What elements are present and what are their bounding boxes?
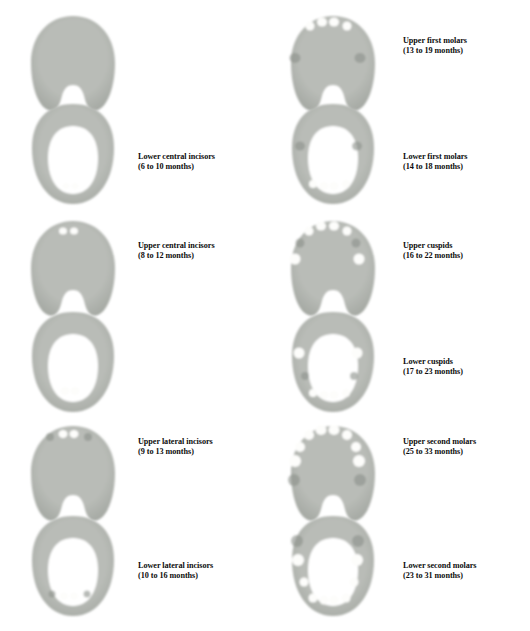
tooth-lower-central-incisor-left bbox=[320, 391, 329, 399]
tooth-upper-first-molar-left bbox=[290, 254, 301, 265]
tooth-upper-first-molar-right bbox=[354, 254, 365, 265]
label-lower-lateral-incisors-months: (10 to 16 months) bbox=[138, 571, 213, 581]
socket-lower-first-molar-right bbox=[352, 142, 362, 151]
tooth-lower-lateral-incisor-left bbox=[309, 389, 317, 397]
tooth-upper-central-incisor-left bbox=[317, 18, 327, 27]
tooth-lower-first-molar-right bbox=[351, 554, 363, 566]
tooth-lower-lateral-incisor-right bbox=[342, 389, 350, 397]
arch-cell-lower-arch-lower-cuspids bbox=[278, 308, 388, 418]
tooth-lower-first-molar-left bbox=[292, 554, 304, 566]
label-lower-lateral-incisors-title: Lower lateral incisors bbox=[138, 561, 213, 571]
label-upper-first-molars-months: (13 to 19 months) bbox=[403, 46, 467, 56]
label-lower-cuspids-title: Lower cuspids bbox=[403, 357, 463, 367]
socket-upper-cuspid-right bbox=[352, 239, 361, 248]
label-lower-central-incisors: Lower central incisors(6 to 10 months) bbox=[138, 152, 215, 173]
tooth-lower-cuspid-right bbox=[350, 578, 359, 587]
label-upper-second-molars: Upper second molars(25 to 33 months) bbox=[403, 437, 476, 458]
lower-arch-lower-second-molars bbox=[278, 512, 388, 622]
label-upper-central-incisors: Upper central incisors(8 to 12 months) bbox=[138, 241, 215, 262]
label-upper-lateral-incisors: Upper lateral incisors(9 to 13 months) bbox=[138, 437, 213, 458]
tooth-upper-lateral-incisor-left bbox=[305, 227, 314, 236]
label-upper-central-incisors-title: Upper central incisors bbox=[138, 241, 215, 251]
label-upper-second-molars-title: Upper second molars bbox=[403, 437, 476, 447]
tooth-lower-lateral-incisor-left bbox=[309, 594, 318, 603]
tooth-upper-central-incisor-right bbox=[329, 425, 340, 435]
tooth-upper-central-incisor-left bbox=[59, 228, 67, 235]
label-upper-first-molars: Upper first molars(13 to 19 months) bbox=[403, 36, 467, 57]
socket-lower-lateral-incisor-right bbox=[84, 591, 91, 598]
label-lower-cuspids: Lower cuspids(17 to 23 months) bbox=[403, 357, 463, 378]
lower-arch-lower-central-incisors bbox=[18, 100, 128, 210]
tooth-upper-central-incisor-left bbox=[316, 222, 326, 231]
socket-lower-second-molar-left bbox=[291, 535, 303, 547]
label-lower-central-incisors-months: (6 to 10 months) bbox=[138, 162, 215, 172]
tooth-upper-cuspid-right bbox=[351, 442, 361, 452]
arch-cell-lower-arch-lower-central-incisors-erupted bbox=[18, 308, 128, 418]
tooth-lower-central-incisor-left bbox=[60, 593, 68, 600]
socket-lower-second-molar-right bbox=[352, 535, 364, 547]
tooth-lower-central-incisor-right bbox=[72, 183, 79, 189]
socket-lower-cuspid-right bbox=[350, 372, 358, 380]
tooth-lower-lateral-incisor-right bbox=[342, 594, 351, 603]
tooth-lower-central-incisor-left bbox=[320, 182, 329, 190]
tooth-lower-central-incisor-right bbox=[71, 387, 80, 395]
label-upper-central-incisors-months: (8 to 12 months) bbox=[138, 251, 215, 261]
lower-arch-lower-lateral-incisors bbox=[18, 512, 128, 622]
socket-upper-cuspid-left bbox=[296, 239, 305, 248]
lower-arch-lower-first-molars bbox=[278, 100, 388, 210]
tooth-upper-lateral-incisor-left bbox=[304, 430, 314, 440]
tooth-upper-central-incisor-left bbox=[316, 425, 327, 435]
label-upper-cuspids: Upper cuspids(16 to 22 months) bbox=[403, 241, 463, 262]
tooth-lower-central-incisor-right bbox=[330, 182, 339, 190]
tooth-lower-central-incisor-right bbox=[330, 391, 339, 399]
socket-lower-cuspid-left bbox=[301, 372, 309, 380]
tooth-lower-central-incisor-right bbox=[70, 593, 78, 600]
tooth-lower-first-molar-left bbox=[294, 348, 305, 359]
tooth-lower-cuspid-left bbox=[300, 578, 309, 587]
tooth-eruption-chart: Lower central incisors(6 to 10 months)Up… bbox=[0, 0, 530, 631]
label-lower-first-molars-title: Lower first molars bbox=[403, 152, 467, 162]
tooth-lower-central-incisor-left bbox=[61, 387, 70, 395]
tooth-lower-first-molar-right bbox=[352, 348, 363, 359]
tooth-upper-first-molar-left bbox=[289, 455, 301, 467]
label-lower-first-molars-months: (14 to 18 months) bbox=[403, 162, 467, 172]
tooth-upper-central-incisor-right bbox=[70, 430, 79, 438]
label-lower-lateral-incisors: Lower lateral incisors(10 to 16 months) bbox=[138, 561, 213, 582]
label-upper-lateral-incisors-title: Upper lateral incisors bbox=[138, 437, 213, 447]
label-lower-second-molars-title: Lower second molars bbox=[403, 561, 477, 571]
arch-cell-lower-arch-lower-first-molars bbox=[278, 100, 388, 210]
socket-upper-lateral-incisor-right bbox=[84, 433, 92, 441]
tooth-upper-central-incisor-right bbox=[329, 222, 339, 231]
label-upper-lateral-incisors-months: (9 to 13 months) bbox=[138, 447, 213, 457]
label-lower-first-molars: Lower first molars(14 to 18 months) bbox=[403, 152, 467, 173]
tooth-lower-central-incisor-left bbox=[63, 183, 70, 189]
tooth-upper-central-incisor-right bbox=[329, 18, 339, 27]
socket-upper-lateral-incisor-left bbox=[46, 433, 54, 441]
lower-arch-lower-cuspids bbox=[278, 308, 388, 418]
tooth-upper-first-molar-right bbox=[353, 455, 365, 467]
arch-cell-lower-arch-lower-central-incisors bbox=[18, 100, 128, 210]
tooth-upper-lateral-incisor-left bbox=[306, 22, 315, 31]
tooth-lower-lateral-incisor-left bbox=[309, 180, 317, 188]
label-lower-central-incisors-title: Lower central incisors bbox=[138, 152, 215, 162]
arch-cell-lower-arch-lower-lateral-incisors bbox=[18, 512, 128, 622]
tooth-lower-central-incisor-right bbox=[330, 596, 339, 605]
tooth-lower-lateral-incisor-right bbox=[342, 180, 350, 188]
socket-lower-lateral-incisor-left bbox=[49, 591, 56, 598]
label-upper-second-molars-months: (25 to 33 months) bbox=[403, 447, 476, 457]
socket-upper-second-molar-right bbox=[354, 474, 366, 486]
tooth-upper-lateral-incisor-right bbox=[342, 430, 352, 440]
arch-cell-lower-arch-lower-second-molars bbox=[278, 512, 388, 622]
socket-upper-first-molar-left bbox=[290, 53, 301, 63]
label-lower-second-molars: Lower second molars(23 to 31 months) bbox=[403, 561, 477, 582]
label-lower-cuspids-months: (17 to 23 months) bbox=[403, 367, 463, 377]
label-lower-second-molars-months: (23 to 31 months) bbox=[403, 571, 477, 581]
label-upper-cuspids-months: (16 to 22 months) bbox=[403, 251, 463, 261]
socket-upper-first-molar-right bbox=[355, 53, 366, 63]
lower-arch-lower-central-incisors-erupted bbox=[18, 308, 128, 418]
tooth-upper-central-incisor-left bbox=[59, 430, 68, 438]
label-upper-first-molars-title: Upper first molars bbox=[403, 36, 467, 46]
label-upper-cuspids-title: Upper cuspids bbox=[403, 241, 463, 251]
tooth-upper-lateral-incisor-right bbox=[343, 227, 352, 236]
tooth-lower-central-incisor-left bbox=[320, 596, 329, 605]
